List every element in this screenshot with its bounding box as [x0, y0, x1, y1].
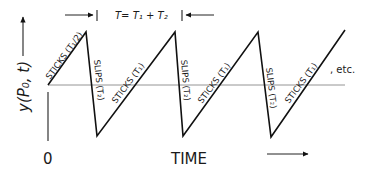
stick-slip-diagram: y(P₀, t) T= T₁ + T₂ STICKS (T₁/2) STICKS…	[0, 0, 367, 173]
stick-label-2: STICKS (T₁)	[110, 61, 147, 105]
stick-label-3: STICKS (T₁)	[196, 61, 233, 105]
stick-label-4: STICKS (T₁)	[283, 61, 320, 105]
slip-label-2: SLIPS (T₂)	[179, 59, 193, 101]
stick-label-1: STICKS (T₁/2)	[44, 30, 85, 81]
origin-label: 0	[43, 150, 53, 168]
y-axis-label: y(P₀, t)	[15, 61, 33, 113]
period-label: T= T₁ + T₂	[115, 10, 168, 21]
x-axis-label: TIME	[170, 150, 207, 168]
slip-label-1: SLIPS (T₂)	[92, 59, 106, 101]
etc-label: , etc.	[330, 64, 355, 75]
